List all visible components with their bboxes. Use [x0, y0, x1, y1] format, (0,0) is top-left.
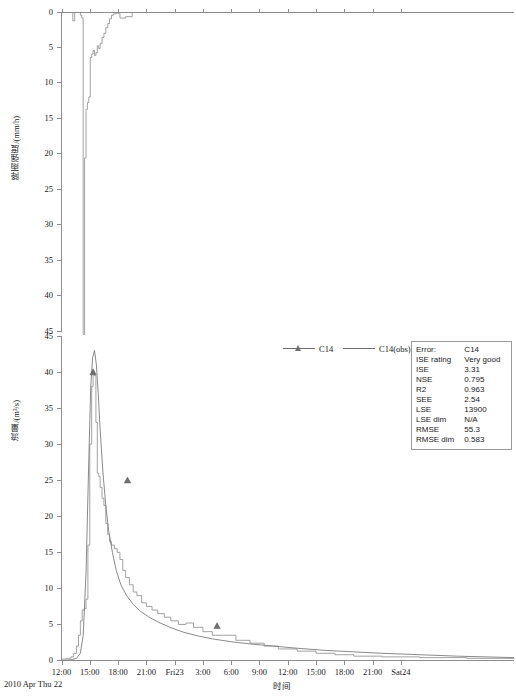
stats-row: R20.963 [416, 385, 507, 395]
stats-row: Error:C14 [416, 345, 507, 355]
legend-label-c14-obs: C14(obs) [379, 344, 411, 354]
discharge-simulated-markers [90, 369, 220, 629]
stats-row-key: Error: [416, 345, 464, 355]
stats-row-key: RMSE dim [416, 435, 464, 445]
rainfall-hyetograph-plot [0, 0, 516, 340]
legend-entry-c14[interactable]: C14 [283, 342, 333, 356]
stats-row-value: 2.54 [464, 395, 507, 405]
x-axis-tick [203, 661, 204, 665]
x-axis-tick [231, 661, 232, 665]
legend-label-c14: C14 [319, 344, 333, 354]
flow-ytick-label-45: 45 [27, 332, 53, 341]
stats-row-value: 0.963 [464, 385, 507, 395]
stats-row: LSE13900 [416, 405, 507, 415]
x-axis-tick-top [62, 9, 63, 13]
x-axis-tick [344, 661, 345, 665]
x-axis-tick [118, 661, 119, 665]
flow-ytick-label-25: 25 [27, 476, 53, 485]
x-axis-date-origin: 2010 Apr Thu 22 [4, 679, 62, 689]
flow-ytick-label-30: 30 [27, 440, 53, 449]
flow-ytick-label-0: 0 [27, 656, 53, 665]
discharge-marker-triangle-icon [214, 623, 220, 629]
rainfall-svg [0, 0, 516, 340]
x-axis-tick-label: Sat24 [379, 667, 423, 677]
error-statistics-table: Error:C14ISE ratingVery goodISE3.31NSE0.… [416, 345, 507, 445]
x-axis-tick-top [288, 9, 289, 13]
stats-row: LSE dimN/A [416, 415, 507, 425]
x-axis-tick-top [344, 9, 345, 13]
rain-ytick-label-35: 35 [27, 256, 53, 265]
x-axis-tick [288, 661, 289, 665]
stats-row-value: 0.795 [464, 375, 507, 385]
stats-row-value: 3.31 [464, 365, 507, 375]
x-axis-tick [90, 661, 91, 665]
legend-line-icon [343, 344, 375, 354]
x-axis-tick-top [175, 9, 176, 13]
x-axis-tick [401, 661, 402, 665]
stats-row-key: RMSE [416, 425, 464, 435]
stats-row-key: LSE [416, 405, 464, 415]
x-axis-tick [62, 661, 63, 665]
stats-row-key: SEE [416, 395, 464, 405]
x-axis-tick-top [259, 9, 260, 13]
x-axis-tick-top [373, 9, 374, 13]
rain-ytick-label-40: 40 [27, 291, 53, 300]
stats-row-key: NSE [416, 375, 464, 385]
rain-ytick-label-10: 10 [27, 78, 53, 87]
chart-legend: C14 C14(obs) [283, 342, 403, 356]
x-axis-tick-top [90, 9, 91, 13]
flow-ytick-label-10: 10 [27, 584, 53, 593]
stats-row: RMSE55.3 [416, 425, 507, 435]
rain-ytick-label-25: 25 [27, 185, 53, 194]
flow-ytick-label-35: 35 [27, 404, 53, 413]
stats-row: NSE0.795 [416, 375, 507, 385]
x-axis-tick-top [146, 9, 147, 13]
stats-row-value: N/A [464, 415, 507, 425]
rainfall-series-path [62, 13, 515, 335]
stats-row-value: 0.583 [464, 435, 507, 445]
discharge-marker-triangle-icon [90, 369, 96, 375]
stats-row-key: ISE rating [416, 355, 464, 365]
stats-row: RMSE dim0.583 [416, 435, 507, 445]
stats-row-key: R2 [416, 385, 464, 395]
chart-page: 0 5 10 15 20 25 30 35 40 45 降雨强度/(mm/h) … [0, 0, 516, 698]
rain-ytick-label-15: 15 [27, 114, 53, 123]
x-axis-tick [373, 661, 374, 665]
rain-ytick-label-20: 20 [27, 149, 53, 158]
x-axis-tick-top [401, 9, 402, 13]
x-axis-tick-top [231, 9, 232, 13]
flow-y-axis-title: 流量/(m³/s) [10, 400, 22, 441]
discharge-marker-triangle-icon [124, 477, 130, 483]
stats-row-value: 55.3 [464, 425, 507, 435]
stats-row-value: C14 [464, 345, 507, 355]
flow-ytick-label-20: 20 [27, 512, 53, 521]
error-statistics-box: Error:C14ISE ratingVery goodISE3.31NSE0.… [411, 341, 512, 450]
x-axis-tick [259, 661, 260, 665]
rain-ytick-label-5: 5 [27, 43, 53, 52]
flow-ytick-label-5: 5 [27, 620, 53, 629]
stats-row-key: LSE dim [416, 415, 464, 425]
legend-marker-triangle-icon [283, 344, 315, 354]
stats-row: SEE2.54 [416, 395, 507, 405]
stats-row: ISE ratingVery good [416, 355, 507, 365]
x-axis-tick [175, 661, 176, 665]
x-axis-tick [316, 661, 317, 665]
rain-ytick-label-30: 30 [27, 220, 53, 229]
x-axis-tick-top [118, 9, 119, 13]
x-axis-tick [146, 661, 147, 665]
stats-row-value: Very good [464, 355, 507, 365]
rain-y-axis-title: 降雨强度/(mm/h) [10, 116, 22, 180]
rain-ytick-label-0: 0 [27, 8, 53, 17]
stats-row-key: ISE [416, 365, 464, 375]
flow-ytick-label-15: 15 [27, 548, 53, 557]
flow-ytick-label-40: 40 [27, 368, 53, 377]
stats-row-value: 13900 [464, 405, 507, 415]
stats-row: ISE3.31 [416, 365, 507, 375]
x-axis-tick-top [203, 9, 204, 13]
x-axis-tick-top [316, 9, 317, 13]
x-axis-title: 时间 [273, 679, 291, 691]
legend-entry-c14-obs[interactable]: C14(obs) [343, 342, 411, 356]
